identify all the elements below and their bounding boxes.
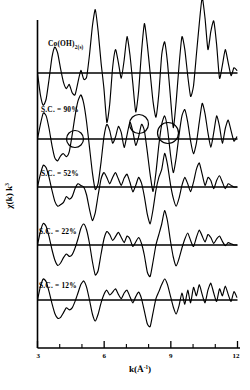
x-axis-title-close: ) (148, 364, 151, 374)
exafs-plot-svg: 36912 Co(OH)2(s)S.C. = 90%S.C. = 52%S.C.… (0, 0, 250, 390)
exafs-figure: 36912 Co(OH)2(s)S.C. = 90%S.C. = 52%S.C.… (0, 0, 250, 390)
x-tick-label: 9 (169, 352, 173, 360)
panel-label-subscript: 2(s) (75, 44, 84, 51)
panel-label-p4: S.C. = 22% (39, 227, 77, 236)
panel-label-text: S.C. = 22% (39, 227, 77, 236)
panel-label-text: S.C. = 12% (39, 281, 77, 290)
y-axis-title-chi: χ(k) k (4, 185, 14, 210)
y-axis-title: χ(k) k3 (4, 183, 14, 210)
panel-label-text: Co(OH) (48, 39, 75, 48)
x-tick-label: 12 (233, 352, 241, 360)
x-axis-title: k(Å-1) (129, 364, 151, 374)
y-axis-title-exponent: 3 (4, 183, 10, 186)
x-tick-label: 6 (102, 352, 106, 360)
x-axis-title-main: k( (129, 364, 137, 374)
panel-label-p5: S.C. = 12% (39, 281, 77, 290)
panel-label-p2: S.C. = 90% (41, 105, 79, 114)
panel-label-p3: S.C. = 52% (41, 169, 79, 178)
panel-label-text: S.C. = 52% (41, 169, 79, 178)
x-tick-label: 3 (37, 352, 41, 360)
panel-label-text: S.C. = 90% (41, 105, 79, 114)
